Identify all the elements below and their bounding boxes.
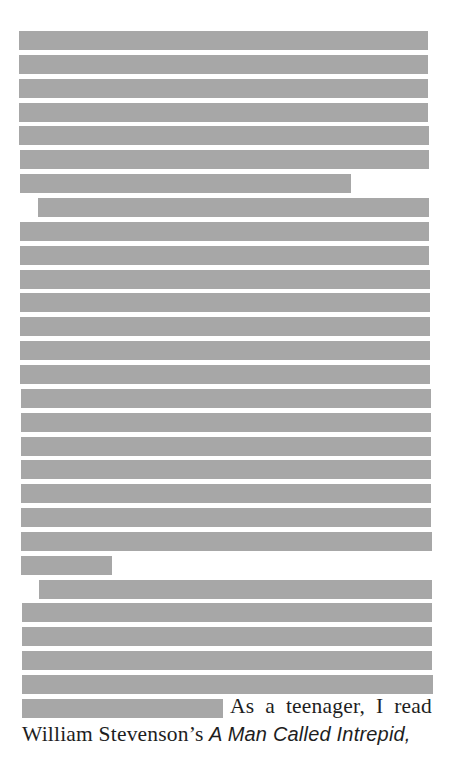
redaction-bar xyxy=(21,413,431,432)
redaction-bar xyxy=(20,270,430,289)
author-text: William Stevenson’s xyxy=(22,722,209,746)
redaction-bar xyxy=(20,222,430,241)
redaction-bar xyxy=(20,341,430,360)
redaction-bar xyxy=(19,103,428,122)
redaction-bar xyxy=(21,484,431,503)
redaction-bar xyxy=(21,532,431,551)
redaction-bar xyxy=(21,460,431,479)
redaction-bar xyxy=(21,389,431,408)
redaction-bar xyxy=(22,675,433,694)
redaction-bar xyxy=(20,174,352,193)
redaction-bar xyxy=(20,317,430,336)
redaction-bar xyxy=(22,603,433,622)
redaction-bar xyxy=(19,126,428,145)
redaction-bar xyxy=(21,508,431,527)
redaction-bar xyxy=(19,55,428,74)
redaction-bar xyxy=(21,556,111,575)
redaction-bar xyxy=(20,150,429,169)
redaction-bar xyxy=(19,79,428,98)
redaction-bar xyxy=(38,198,430,217)
text-line: William Stevenson’s A Man Called Intrepi… xyxy=(22,722,411,747)
book-title: A Man Called Intrepid, xyxy=(209,723,411,745)
redaction-bar xyxy=(22,627,433,646)
redaction-bar xyxy=(22,651,433,670)
document-page: As a teenager, I read William Stevenson’… xyxy=(0,0,462,761)
redaction-bar xyxy=(22,699,223,718)
redaction-bar xyxy=(20,293,430,312)
redaction-bar xyxy=(19,31,428,50)
redaction-bar xyxy=(20,246,430,265)
redaction-bar xyxy=(20,365,430,384)
redaction-bar xyxy=(39,580,432,599)
redaction-bar xyxy=(21,437,431,456)
text-line: As a teenager, I read xyxy=(230,694,432,719)
